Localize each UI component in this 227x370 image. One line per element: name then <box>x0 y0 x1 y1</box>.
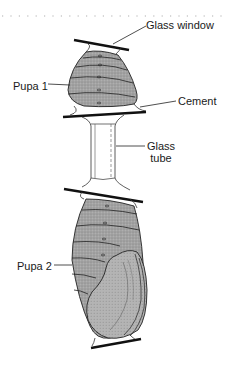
pupa-1 <box>68 51 137 107</box>
glass-tube <box>82 115 130 190</box>
label-glass-window: Glass window <box>146 19 214 31</box>
label-pupa-1: Pupa 1 <box>13 80 48 92</box>
bottom-glass-window <box>91 339 141 348</box>
leader-glass-window <box>113 26 146 44</box>
label-glass-tube-line2: tube <box>146 152 176 164</box>
label-glass-tube: Glass tube <box>146 140 176 164</box>
label-cement: Cement <box>178 95 217 107</box>
pupa-diagram <box>0 0 227 370</box>
leader-pupa1 <box>48 84 70 85</box>
leader-cement <box>140 101 176 107</box>
label-pupa-2: Pupa 2 <box>17 260 52 272</box>
label-glass-tube-line1: Glass <box>146 140 176 152</box>
pupa-2 <box>72 199 147 338</box>
middle-glass-window <box>63 112 146 117</box>
